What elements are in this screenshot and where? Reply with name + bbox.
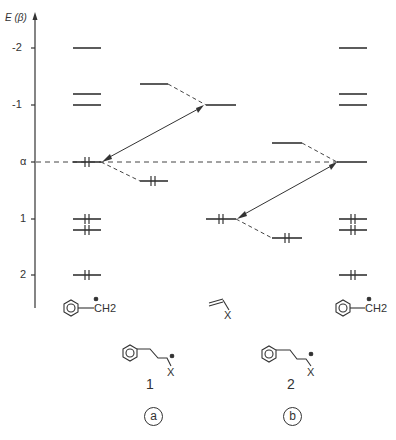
mo-diagram	[0, 0, 396, 440]
compound-2-structure	[262, 346, 313, 366]
tick-label-1: 1	[20, 212, 26, 224]
right-electron-pairs	[351, 214, 355, 280]
panel-a-interaction-arrow	[102, 105, 204, 162]
panel-b-interaction-arrow	[237, 162, 337, 219]
vinyl-substituent: X	[224, 309, 231, 321]
left-benzyl-formula: CH2	[94, 302, 116, 314]
compound-1-number: 1	[146, 376, 154, 392]
compound-1-substituent: X	[167, 366, 174, 378]
panel-a-correlation	[101, 84, 206, 181]
compound-2-number: 2	[287, 376, 295, 392]
tick-label-alpha: α	[20, 155, 26, 167]
tick-label-minus-2: -2	[12, 41, 22, 53]
energy-axis-title: E (β)	[5, 12, 27, 23]
tick-label-minus-1: -1	[12, 98, 22, 110]
right-benzyl-formula: CH2	[365, 302, 387, 314]
tick-label-2: 2	[20, 268, 26, 280]
right-benzyl-levels	[337, 48, 367, 275]
compound-2-substituent: X	[307, 366, 314, 378]
compound-1-structure	[123, 345, 174, 366]
left-benzyl-levels	[73, 48, 101, 275]
panel-a-label: a	[144, 407, 163, 426]
panel-b-label: b	[283, 407, 302, 426]
energy-axis	[31, 12, 38, 308]
left-benzyl-structure	[64, 297, 98, 316]
